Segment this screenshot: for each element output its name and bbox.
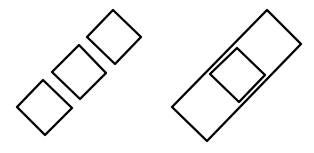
figure-rectangle-with-square — [172, 10, 301, 141]
outer-rectangle — [172, 10, 301, 141]
diagram-canvas — [0, 0, 314, 153]
inner-square — [210, 48, 265, 102]
figure-three-squares — [17, 10, 141, 135]
square-bottom — [17, 80, 72, 135]
square-top — [87, 10, 141, 64]
square-middle — [52, 45, 106, 99]
